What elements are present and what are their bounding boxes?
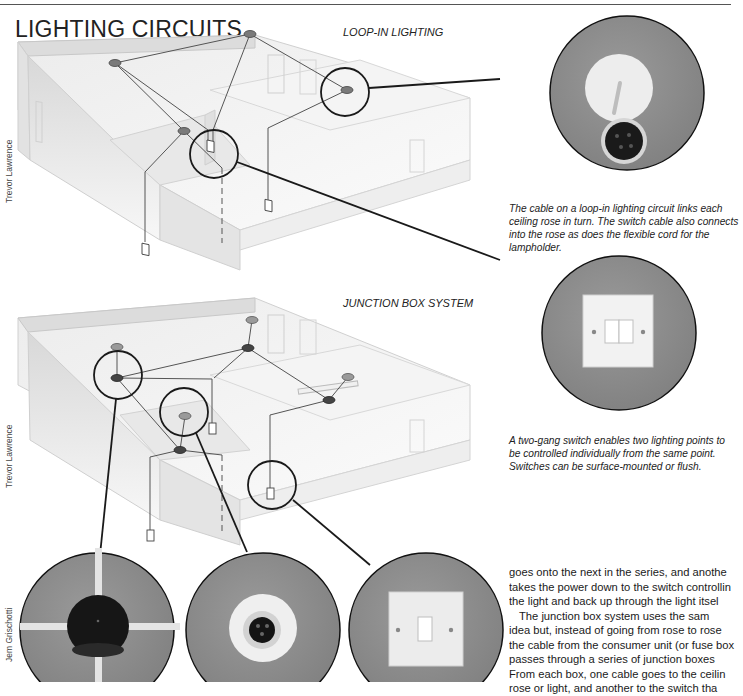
caption-line: ceiling rose in turn. The switch cable a… (509, 215, 743, 228)
caption-line: into the rose as does the flexible cord … (509, 228, 743, 241)
body-line: the light and back up through the light … (509, 594, 737, 609)
junction-box-room-diagram (18, 298, 470, 565)
junction-box-inset-photo (20, 548, 180, 682)
body-line: rose or light, and another to the switch… (509, 681, 737, 696)
one-gang-switch-inset-photo (349, 553, 503, 682)
caption-line: The cable on a loop-in lighting circuit … (509, 202, 743, 215)
caption-line: Switches can be surface-mounted or flush… (509, 460, 743, 473)
ceiling-rose-inset-photo (550, 16, 704, 170)
article-body-text: goes onto the next in the series, and an… (509, 565, 737, 696)
caption-line: A two-gang switch enables two lighting p… (509, 434, 743, 447)
body-line: The junction box system uses the sam (509, 609, 737, 624)
two-gang-switch-caption: A two-gang switch enables two lighting p… (509, 434, 743, 473)
caption-line: be controlled individually from the same… (509, 447, 743, 460)
body-line: goes onto the next in the series, and an… (509, 565, 737, 580)
batten-lampholder-inset-photo (186, 553, 340, 682)
body-line: From each box, one cable goes to the cei… (509, 667, 737, 682)
body-line: idea but, instead of going from rose to … (509, 623, 737, 638)
body-line: the cable from the consumer unit (or fus… (509, 638, 737, 653)
two-gang-switch-inset-photo (542, 256, 696, 410)
loop-in-caption: The cable on a loop-in lighting circuit … (509, 202, 743, 254)
caption-line: lampholder. (509, 241, 743, 254)
body-line: passes through a series of junction boxe… (509, 652, 737, 667)
body-line: takes the power down to the switch contr… (509, 580, 737, 595)
loop-in-room-diagram (18, 31, 500, 271)
